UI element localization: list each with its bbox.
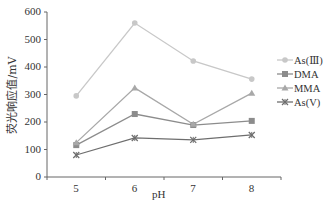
series-line — [76, 88, 252, 143]
y-tick-label: 0 — [36, 170, 42, 182]
y-tick-label: 400 — [25, 60, 42, 72]
y-tick-label: 300 — [25, 88, 42, 100]
y-axis-label: 荧光响应值/mV — [3, 50, 19, 140]
series-line — [76, 23, 252, 96]
legend-item: MMA — [276, 82, 320, 94]
legend-item: As(Ⅲ) — [276, 54, 323, 66]
y-tick-label: 600 — [25, 5, 42, 17]
x-tick-label: 8 — [249, 182, 255, 194]
series-line — [76, 135, 252, 155]
x-marker-icon — [276, 96, 294, 108]
legend-label: DMA — [294, 69, 319, 80]
line-chart: 荧光响应值/mV pH 0100200300400500600 5678 As(… — [0, 0, 329, 210]
legend-item: As(V) — [276, 96, 320, 108]
x-tick-label: 5 — [73, 182, 79, 194]
y-tick-label: 200 — [25, 115, 42, 127]
square-marker-icon — [276, 68, 294, 80]
x-axis-label: pH — [152, 188, 165, 200]
y-tick-label: 100 — [25, 143, 42, 155]
legend-label: As(Ⅲ) — [294, 54, 323, 66]
legend-label: MMA — [294, 83, 320, 94]
legend-label: As(V) — [294, 97, 320, 108]
y-tick-label: 500 — [25, 33, 42, 45]
legend-item: DMA — [276, 68, 319, 80]
circle-marker-icon — [276, 54, 294, 66]
x-tick-label: 7 — [190, 182, 196, 194]
triangle-marker-icon — [276, 82, 294, 94]
x-tick-label: 6 — [132, 182, 138, 194]
